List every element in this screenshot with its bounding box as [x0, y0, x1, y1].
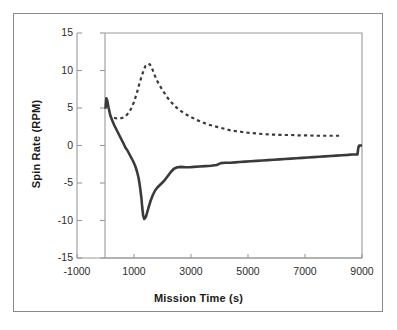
x-tick-label: 1000	[108, 265, 160, 277]
y-tick-marks	[77, 33, 105, 258]
x-axis-title: Mission Time (s)	[0, 292, 397, 304]
y-tick-label: -5	[43, 176, 73, 188]
x-tick-label: 7000	[279, 265, 331, 277]
y-axis-title: Spin Rate (RPM)	[30, 64, 42, 224]
x-tick-label: 3000	[165, 265, 217, 277]
axes-lines	[77, 33, 362, 258]
y-tick-label: -10	[43, 214, 73, 226]
x-tick-label: 9000	[336, 265, 388, 277]
x-tick-marks	[77, 254, 362, 258]
x-tick-label: -1000	[51, 265, 103, 277]
figure-canvas: 151050-5-10-15 -100010003000500070009000…	[0, 0, 397, 330]
y-tick-label: 10	[43, 64, 73, 76]
axis-frame	[105, 33, 362, 258]
series-dashed-spin-rate	[114, 64, 339, 136]
y-tick-label: 15	[43, 26, 73, 38]
plot-area	[0, 0, 397, 330]
data-series-group	[106, 64, 363, 219]
y-tick-label: -15	[43, 251, 73, 263]
y-tick-label: 5	[43, 101, 73, 113]
x-tick-label: 5000	[222, 265, 274, 277]
series-solid-spin-rate	[106, 98, 363, 219]
y-tick-label: 0	[43, 139, 73, 151]
